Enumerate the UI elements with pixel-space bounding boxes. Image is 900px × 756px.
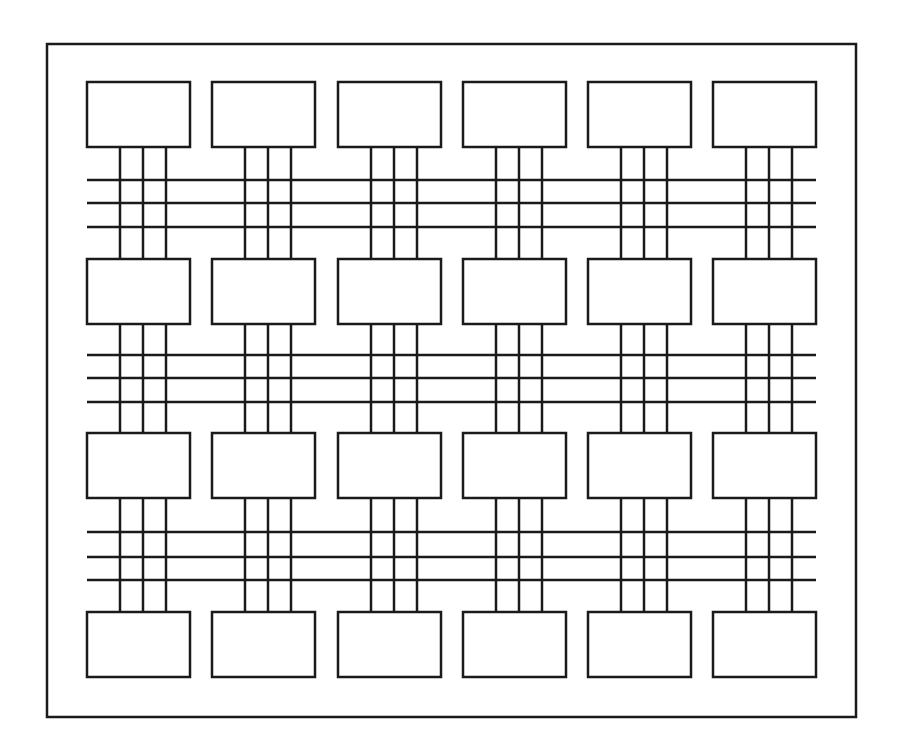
logic-block-r0-c2 (338, 82, 441, 147)
logic-block-r1-c0 (87, 259, 190, 324)
logic-block-r0-c3 (463, 82, 566, 147)
logic-block-r2-c0 (87, 433, 190, 498)
logic-block-r3-c3 (463, 612, 566, 677)
logic-block-r0-c0 (87, 82, 190, 147)
logic-block-r3-c4 (588, 612, 691, 677)
logic-block-r0-c1 (212, 82, 315, 147)
logic-block-r1-c5 (713, 259, 816, 324)
logic-block-r2-c1 (212, 433, 315, 498)
logic-block-r0-c5 (713, 82, 816, 147)
logic-block-r1-c1 (212, 259, 315, 324)
logic-block-r2-c5 (713, 433, 816, 498)
logic-block-r3-c2 (338, 612, 441, 677)
logic-block-r1-c4 (588, 259, 691, 324)
logic-block-r2-c4 (588, 433, 691, 498)
interconnect-grid-diagram (0, 0, 900, 756)
logic-block-r3-c5 (713, 612, 816, 677)
logic-block-r1-c3 (463, 259, 566, 324)
logic-block-r0-c4 (588, 82, 691, 147)
logic-block-r1-c2 (338, 259, 441, 324)
logic-block-r3-c1 (212, 612, 315, 677)
logic-block-r2-c2 (338, 433, 441, 498)
logic-block-r2-c3 (463, 433, 566, 498)
logic-block-r3-c0 (87, 612, 190, 677)
